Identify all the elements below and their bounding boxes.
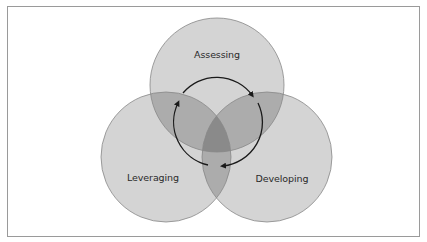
venn-diagram: Assessing Leveraging Developing [0, 0, 427, 242]
label-leveraging: Leveraging [127, 172, 179, 183]
label-developing: Developing [256, 173, 309, 184]
label-assessing: Assessing [194, 49, 240, 60]
